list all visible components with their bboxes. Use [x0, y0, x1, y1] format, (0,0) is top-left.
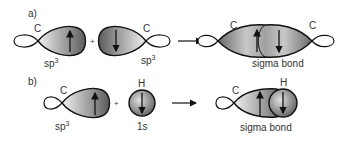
sigma-bond-diagram: a) C sp3 + C sp3 C C sig	[0, 0, 348, 142]
sp3-orbital-right	[99, 27, 171, 56]
panel-label-a: a)	[28, 8, 37, 19]
atom-label-c: C	[230, 20, 237, 31]
orbital-label-sp3: sp3	[141, 54, 156, 66]
atom-label-c: C	[143, 23, 150, 34]
1s-orbital-hydrogen	[129, 90, 155, 116]
atom-label-c: C	[309, 20, 316, 31]
orbital-label-sp3: sp3	[55, 120, 70, 132]
sigma-bond-caption: sigma bond	[240, 122, 292, 133]
atom-label-c: C	[60, 85, 67, 96]
plus-sign: +	[90, 37, 95, 46]
plus-sign: +	[114, 99, 119, 108]
orbital-label-1s: 1s	[137, 121, 148, 132]
sp3-orbital-carbon	[44, 89, 110, 118]
sigma-bond-ch	[216, 89, 297, 117]
sp3-orbital-left	[14, 27, 86, 56]
sigma-bond-caption: sigma bond	[252, 58, 304, 69]
orbital-label-sp3: sp3	[44, 57, 59, 69]
panel-label-b: b)	[28, 76, 37, 87]
atom-label-c: C	[34, 23, 41, 34]
atom-label-c: C	[232, 85, 239, 96]
panel-a: a) C sp3 + C sp3 C C sig	[14, 8, 334, 69]
atom-label-h: H	[138, 78, 145, 89]
panel-b: b) C sp3 + H 1s C H sigma bond	[28, 76, 297, 133]
atom-label-h: H	[280, 77, 287, 88]
